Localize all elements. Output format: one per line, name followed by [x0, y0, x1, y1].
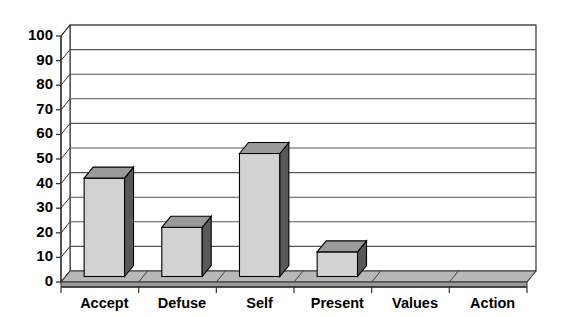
- y-axis-tick-label: 20: [36, 223, 53, 240]
- x-axis-category-label: Accept: [80, 295, 129, 311]
- bar-side-face: [125, 167, 134, 276]
- bar-front-face: [162, 227, 202, 276]
- bar-front-face: [84, 178, 124, 276]
- bar-top-face: [162, 216, 211, 227]
- bar-group: [239, 143, 288, 277]
- bar-group: [84, 167, 133, 276]
- y-axis-tick-label: 100: [28, 26, 53, 43]
- bar-top-face: [239, 143, 288, 154]
- y-axis-tick-label: 0: [45, 272, 53, 289]
- bar-front-face: [317, 252, 357, 277]
- y-axis-tick-label: 70: [36, 100, 53, 117]
- x-axis-category-label: Present: [311, 295, 364, 311]
- bar-group: [162, 216, 211, 276]
- y-axis-tick-label: 90: [36, 51, 53, 68]
- bar-top-face: [84, 167, 133, 178]
- plot-floor: [61, 271, 536, 287]
- y-axis-tick-label: 40: [36, 174, 53, 191]
- y-axis-tick-label: 50: [36, 149, 53, 166]
- y-axis-tick-label: 30: [36, 198, 53, 215]
- y-axis-tick-label: 80: [36, 75, 53, 92]
- bar-group: [317, 241, 366, 277]
- y-axis-tick-label: 10: [36, 247, 53, 264]
- y-axis-tick-label: 60: [36, 124, 53, 141]
- x-axis-category-label: Self: [246, 295, 273, 311]
- x-axis-category-label: Defuse: [158, 295, 206, 311]
- chart-container: 0102030405060708090100 AcceptDefuseSelfP…: [0, 0, 567, 317]
- x-axis-category-label: Values: [392, 295, 438, 311]
- bar-front-face: [239, 154, 279, 277]
- x-axis-category-label: Action: [470, 295, 515, 311]
- bar-side-face: [280, 143, 289, 277]
- bar-top-face: [317, 241, 366, 252]
- bar-chart-3d: 0102030405060708090100 AcceptDefuseSelfP…: [0, 0, 567, 317]
